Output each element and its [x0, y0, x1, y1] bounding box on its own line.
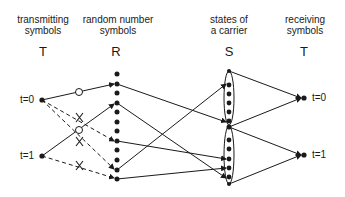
accepted-marker-o: [76, 89, 83, 96]
random-number-dots: [115, 72, 120, 182]
carrier-lower-group: [224, 126, 234, 184]
carrier-to-receive-lines: [229, 71, 301, 184]
receive-dot-t0: [301, 95, 306, 100]
carrier-upper-group: [224, 71, 234, 125]
receive-dot-t1: [301, 152, 306, 157]
random-to-carrier-lines: [117, 84, 226, 179]
accepted-marker-o: [76, 127, 83, 134]
diagram-canvas: [0, 0, 345, 197]
